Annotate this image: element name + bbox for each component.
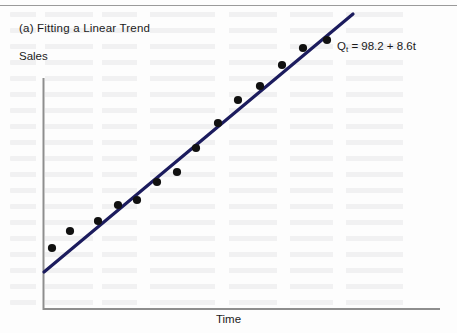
data-point [133, 196, 141, 204]
data-point [256, 82, 264, 90]
data-point [214, 119, 222, 127]
data-point [192, 144, 200, 152]
data-point [153, 178, 161, 186]
data-point [48, 244, 56, 252]
data-point [299, 44, 307, 52]
x-axis-label: Time [0, 313, 457, 325]
data-point [323, 36, 331, 44]
data-point [94, 217, 102, 225]
data-point [114, 201, 122, 209]
data-point [66, 227, 74, 235]
figure-page: (a) Fitting a Linear Trend Sales Qt = 98… [0, 0, 457, 333]
data-point [234, 96, 242, 104]
data-point [278, 61, 286, 69]
data-point [173, 168, 181, 176]
trend-line [44, 14, 353, 272]
scatter-plot-canvas [0, 0, 457, 333]
